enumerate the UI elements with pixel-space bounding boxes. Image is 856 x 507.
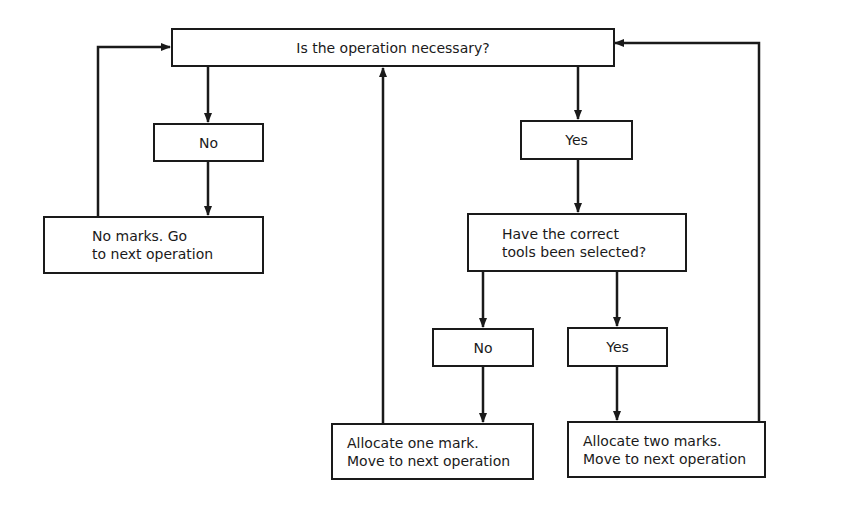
node-label: Allocate one mark. Move to next operatio… xyxy=(347,434,510,470)
node-label: Yes xyxy=(565,131,588,149)
node-label: Yes xyxy=(606,338,629,356)
node-no-1: No xyxy=(153,123,264,162)
node-no-marks: No marks. Go to next operation xyxy=(43,216,264,274)
node-label: No xyxy=(199,134,218,152)
node-label: No xyxy=(473,339,492,357)
node-label: Is the operation necessary? xyxy=(296,39,489,57)
node-operation-necessary: Is the operation necessary? xyxy=(171,28,615,67)
node-label: No marks. Go to next operation xyxy=(92,227,213,263)
node-label: Allocate two marks. Move to next operati… xyxy=(583,432,746,468)
node-allocate-two-marks: Allocate two marks. Move to next operati… xyxy=(567,421,766,478)
node-yes-2: Yes xyxy=(567,327,668,367)
node-label: Have the correct tools been selected? xyxy=(502,225,646,261)
node-no-2: No xyxy=(432,328,534,367)
node-yes-1: Yes xyxy=(520,120,633,160)
node-allocate-one-mark: Allocate one mark. Move to next operatio… xyxy=(331,423,534,480)
node-correct-tools: Have the correct tools been selected? xyxy=(467,213,687,272)
